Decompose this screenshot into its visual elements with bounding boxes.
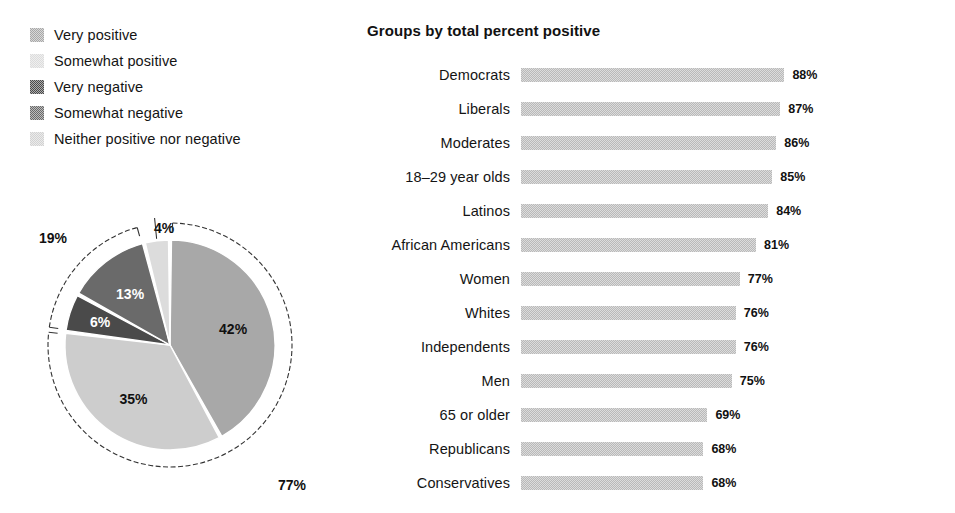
bar-fill bbox=[521, 68, 784, 82]
bar-fill bbox=[521, 408, 707, 422]
bar-fill bbox=[521, 442, 703, 456]
bar-track: 69% bbox=[521, 398, 955, 432]
bar-row: African Americans81% bbox=[345, 228, 955, 262]
legend-item: Very negative bbox=[30, 74, 330, 100]
bar-track: 68% bbox=[521, 432, 955, 466]
bar-track: 76% bbox=[521, 330, 955, 364]
bar-value-label: 68% bbox=[711, 475, 736, 491]
pie-slice-value: 6% bbox=[90, 314, 111, 330]
legend-item-label: Somewhat negative bbox=[54, 105, 183, 121]
pie-slice-value: 13% bbox=[116, 286, 145, 302]
pie-panel: Very positiveSomewhat positiveVery negat… bbox=[0, 0, 345, 513]
bar-value-label: 69% bbox=[715, 407, 740, 423]
bar-fill bbox=[521, 272, 740, 286]
bar-track: 75% bbox=[521, 364, 955, 398]
bar-track: 76% bbox=[521, 296, 955, 330]
bar-track: 87% bbox=[521, 92, 955, 126]
bar-fill bbox=[521, 340, 736, 354]
bar-category-label: Liberals bbox=[345, 101, 521, 117]
bar-fill bbox=[521, 102, 780, 116]
legend-swatch-very-positive bbox=[30, 28, 44, 42]
bar-track: 86% bbox=[521, 126, 955, 160]
chart-page: Very positiveSomewhat positiveVery negat… bbox=[0, 0, 955, 513]
bar-category-label: Conservatives bbox=[345, 475, 521, 491]
bar-category-label: Women bbox=[345, 271, 521, 287]
bar-track: 77% bbox=[521, 262, 955, 296]
bar-fill bbox=[521, 238, 756, 252]
pie-callout-neither-label: 4% bbox=[154, 220, 175, 236]
legend-swatch-neither bbox=[30, 132, 44, 146]
bar-category-label: African Americans bbox=[345, 237, 521, 253]
bar-row: 65 or older69% bbox=[345, 398, 955, 432]
bar-track: 81% bbox=[521, 228, 955, 262]
pie-chart-svg: 42%35%6%13%4%77%19% bbox=[18, 192, 338, 492]
bar-row: Men75% bbox=[345, 364, 955, 398]
pie-slice-value: 42% bbox=[219, 321, 248, 337]
bar-value-label: 77% bbox=[748, 271, 773, 287]
bar-value-label: 75% bbox=[740, 373, 765, 389]
bar-row: Democrats88% bbox=[345, 58, 955, 92]
bar-value-label: 85% bbox=[780, 169, 805, 185]
bar-value-label: 86% bbox=[784, 135, 809, 151]
pie-slice-value: 35% bbox=[119, 391, 148, 407]
bar-category-label: Moderates bbox=[345, 135, 521, 151]
legend-item: Somewhat positive bbox=[30, 48, 330, 74]
bar-track: 88% bbox=[521, 58, 955, 92]
bar-row: Republicans68% bbox=[345, 432, 955, 466]
legend-item-label: Very negative bbox=[54, 79, 143, 95]
legend-item-label: Neither positive nor negative bbox=[54, 131, 241, 147]
legend-item: Neither positive nor negative bbox=[30, 126, 330, 152]
legend-swatch-somewhat-positive bbox=[30, 54, 44, 68]
bar-value-label: 87% bbox=[788, 101, 813, 117]
legend-item-label: Very positive bbox=[54, 27, 138, 43]
bar-category-label: Latinos bbox=[345, 203, 521, 219]
bar-value-label: 76% bbox=[744, 339, 769, 355]
bar-fill bbox=[521, 374, 732, 388]
bar-category-label: Whites bbox=[345, 305, 521, 321]
bar-fill bbox=[521, 204, 768, 218]
bar-category-label: Democrats bbox=[345, 67, 521, 83]
pie-bracket-positive-label: 77% bbox=[278, 477, 307, 492]
bar-category-label: Men bbox=[345, 373, 521, 389]
bar-row: Conservatives68% bbox=[345, 466, 955, 500]
bar-row: 18–29 year olds85% bbox=[345, 160, 955, 194]
bar-value-label: 76% bbox=[744, 305, 769, 321]
bar-category-label: 18–29 year olds bbox=[345, 169, 521, 185]
legend-item: Somewhat negative bbox=[30, 100, 330, 126]
bar-row: Women77% bbox=[345, 262, 955, 296]
bar-value-label: 68% bbox=[711, 441, 736, 457]
bar-fill bbox=[521, 476, 703, 490]
bar-chart-rows: Democrats88%Liberals87%Moderates86%18–29… bbox=[345, 58, 955, 500]
legend-item-label: Somewhat positive bbox=[54, 53, 177, 69]
bar-row: Independents76% bbox=[345, 330, 955, 364]
legend-swatch-somewhat-negative bbox=[30, 106, 44, 120]
bar-track: 84% bbox=[521, 194, 955, 228]
bar-chart-title: Groups by total percent positive bbox=[367, 22, 600, 39]
pie-chart: 42%35%6%13%4%77%19% bbox=[18, 192, 338, 492]
bar-track: 68% bbox=[521, 466, 955, 500]
bar-fill bbox=[521, 170, 772, 184]
bar-value-label: 81% bbox=[764, 237, 789, 253]
bar-value-label: 88% bbox=[792, 67, 817, 83]
bar-panel: Groups by total percent positive Democra… bbox=[345, 0, 955, 513]
pie-bracket-negative-label: 19% bbox=[39, 230, 68, 246]
bar-category-label: Independents bbox=[345, 339, 521, 355]
bar-fill bbox=[521, 306, 736, 320]
bar-category-label: 65 or older bbox=[345, 407, 521, 423]
legend-item: Very positive bbox=[30, 22, 330, 48]
pie-legend: Very positiveSomewhat positiveVery negat… bbox=[30, 22, 330, 152]
legend-swatch-very-negative bbox=[30, 80, 44, 94]
bar-track: 85% bbox=[521, 160, 955, 194]
bar-value-label: 84% bbox=[776, 203, 801, 219]
bar-row: Liberals87% bbox=[345, 92, 955, 126]
bar-category-label: Republicans bbox=[345, 441, 521, 457]
bar-fill bbox=[521, 136, 776, 150]
bar-row: Moderates86% bbox=[345, 126, 955, 160]
bar-row: Latinos84% bbox=[345, 194, 955, 228]
bar-row: Whites76% bbox=[345, 296, 955, 330]
